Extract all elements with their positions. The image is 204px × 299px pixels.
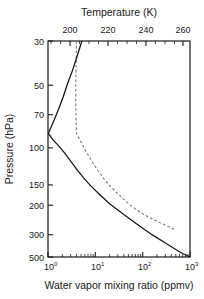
bottom-axis-title: Water vapor mixing ratio (ppmv) [45, 279, 194, 291]
bottom-tick-label: 103 [185, 261, 199, 272]
y-tick-label: 500 [29, 253, 44, 263]
y-axis-ticks [48, 41, 53, 257]
top-tick-label: 200 [62, 25, 77, 35]
y-tick-label: 300 [29, 230, 44, 240]
profile-chart: Temperature (K) 200 220 240 260 [0, 0, 204, 299]
series-layer [48, 41, 190, 257]
y-tick-label: 150 [29, 180, 44, 190]
top-axis-ticks [70, 41, 183, 46]
y-axis-tick-labels: 30 50 70 100 150 200 300 500 [29, 37, 44, 263]
top-axis-tick-labels: 200 220 240 260 [62, 25, 190, 35]
bottom-tick-label: 102 [138, 261, 152, 272]
y-axis-title: Pressure (hPa) [3, 114, 15, 185]
chart-figure: Temperature (K) 200 220 240 260 [0, 0, 204, 299]
top-tick-label: 240 [138, 25, 153, 35]
y-tick-label: 30 [34, 37, 44, 47]
top-axis-title: Temperature (K) [81, 6, 157, 18]
y-tick-label: 100 [29, 143, 44, 153]
temperature-profile-line [76, 41, 175, 230]
bottom-tick-label: 101 [91, 261, 105, 272]
plot-frame [48, 41, 190, 257]
water-vapor-profile-line [48, 41, 190, 257]
top-tick-label: 260 [175, 25, 190, 35]
top-tick-label: 220 [100, 25, 115, 35]
bottom-axis-tick-labels: 100 101 102 103 [44, 261, 199, 272]
y-tick-label: 200 [29, 201, 44, 211]
bottom-axis-ticks [48, 252, 190, 257]
y-tick-label: 70 [34, 110, 44, 120]
y-tick-label: 50 [34, 81, 44, 91]
bottom-tick-label: 100 [44, 261, 58, 272]
